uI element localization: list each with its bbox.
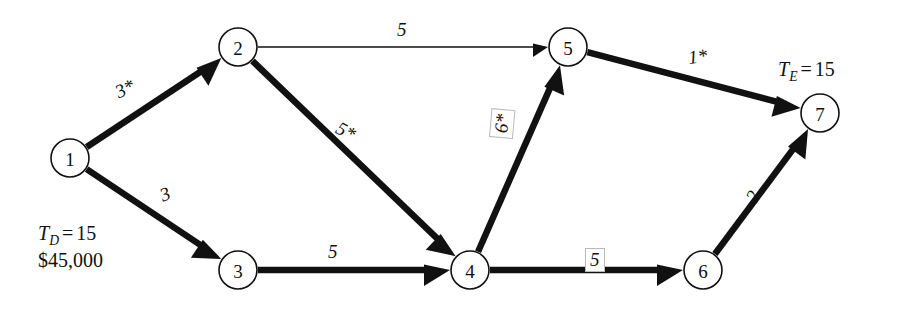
annotation-te: TE=15 (778, 58, 835, 85)
annotation-td-symbol: T (38, 222, 49, 244)
node-4[interactable]: 4 (451, 251, 489, 289)
arrowhead-icon (657, 264, 683, 286)
node-label: 4 (465, 261, 475, 282)
edge-2-to-4 (252, 61, 455, 256)
node-3[interactable]: 3 (219, 251, 257, 289)
annotation-td-line: TD=15 (38, 222, 103, 249)
edge-4-to-5 (478, 65, 564, 251)
edge-6-to-7 (715, 129, 808, 254)
node-label: 1 (65, 149, 75, 170)
edge-label-4-6: 5 (585, 248, 605, 272)
node-6[interactable]: 6 (684, 251, 722, 289)
annotation-td-equals: = (59, 222, 76, 244)
edge-1-to-2 (87, 58, 222, 147)
edge-label-4-5: 6* (489, 108, 515, 139)
node-label: 6 (698, 261, 708, 282)
node-1[interactable]: 1 (51, 139, 89, 177)
annotation-te-value: 15 (815, 58, 835, 80)
arrowhead-icon (424, 264, 450, 286)
node-2[interactable]: 2 (219, 28, 257, 66)
annotation-te-symbol: T (778, 58, 789, 80)
edge-2-to-5 (258, 44, 548, 58)
node-label: 5 (563, 38, 573, 59)
arrowhead-icon (197, 58, 222, 86)
edge-label-3-4: 5 (328, 242, 338, 261)
node-5[interactable]: 5 (549, 28, 587, 66)
node-label: 7 (815, 104, 825, 125)
node-label: 3 (233, 261, 243, 282)
annotation-te-equals: = (797, 58, 814, 80)
annotation-td-subscript: D (49, 233, 59, 248)
edges-layer (87, 44, 808, 287)
edge-label-2-5: 5 (397, 20, 407, 39)
annotation-project-cost: $45,000 (38, 249, 103, 273)
edge-line (587, 52, 780, 102)
annotation-td-value: 15 (76, 222, 96, 244)
node-7[interactable]: 7 (801, 94, 839, 132)
edge-1-to-3 (87, 169, 222, 259)
arrowhead-icon (426, 234, 456, 256)
edge-line (252, 61, 440, 242)
network-diagram: 1234567 3*355*56*51*2 TE=15 TD=15 $45,00… (0, 0, 908, 314)
node-label: 2 (233, 38, 243, 59)
edge-line (87, 70, 204, 147)
network-graph-canvas: 1234567 (0, 0, 908, 314)
annotation-td: TD=15 $45,000 (38, 222, 103, 273)
edge-line (87, 169, 204, 247)
edge-3-to-4 (258, 264, 450, 286)
edge-label-5-7: 1* (687, 46, 708, 67)
arrowhead-icon (533, 44, 548, 58)
